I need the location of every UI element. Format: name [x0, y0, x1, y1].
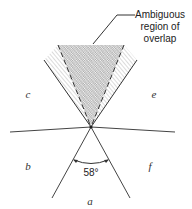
- region-label-b: b: [25, 160, 31, 172]
- lower-line-right: [91, 127, 130, 198]
- vertex-point: [89, 125, 92, 128]
- callout-leader-line: [93, 15, 135, 44]
- angle-arc: [73, 160, 109, 164]
- region-label-f: f: [148, 160, 153, 172]
- callout-line-3: overlap: [144, 33, 177, 44]
- boundary-line-left: [10, 127, 91, 132]
- region-label-e: e: [152, 88, 157, 100]
- boundary-line-right: [91, 127, 175, 132]
- lower-line-left: [52, 127, 91, 198]
- sector-overlap-diagram: 58° Ambiguous region of overlap c e b f …: [0, 0, 192, 209]
- callout-line-2: region of: [141, 21, 180, 32]
- callout-line-1: Ambiguous: [135, 9, 185, 20]
- angle-label: 58°: [83, 167, 98, 178]
- region-label-a: a: [87, 195, 93, 207]
- region-label-c: c: [26, 88, 31, 100]
